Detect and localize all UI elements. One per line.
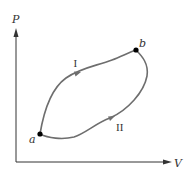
point-a-marker: [37, 131, 42, 136]
point-b-label: b: [139, 37, 146, 50]
point-b-marker: [133, 47, 138, 52]
point-a-label: a: [29, 133, 36, 146]
path-II-label: II: [116, 121, 124, 133]
path-II-arrow-icon: [108, 116, 115, 121]
path-II-curve: [40, 50, 147, 138]
y-axis-arrow-icon: [14, 28, 19, 37]
x-axis: [16, 160, 172, 165]
y-axis: [14, 28, 19, 162]
path-I-label: I: [74, 57, 78, 69]
path-I-arrow-icon: [74, 72, 81, 77]
x-axis-arrow-icon: [163, 160, 172, 165]
x-axis-label: V: [174, 157, 183, 170]
y-axis-label: P: [11, 13, 20, 26]
pv-diagram: P V I II a b: [0, 0, 193, 176]
